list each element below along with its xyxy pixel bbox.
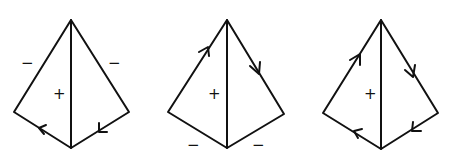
kite-1-label-left-upper: − — [21, 54, 34, 72]
kite-1-label-right-upper: − — [108, 54, 121, 72]
kite-3: + — [323, 20, 438, 149]
kite-2: + − − — [168, 20, 284, 154]
diagram-canvas: − − + + − − + — [0, 0, 451, 162]
kite-1-label-center: + — [53, 85, 66, 103]
kite-2-label-left-lower: − — [187, 136, 200, 154]
kite-3-label-center: + — [364, 85, 377, 103]
kite-2-label-center: + — [208, 85, 221, 103]
kite-2-label-right-lower: − — [252, 136, 265, 154]
kite-1: − − + — [14, 20, 129, 148]
